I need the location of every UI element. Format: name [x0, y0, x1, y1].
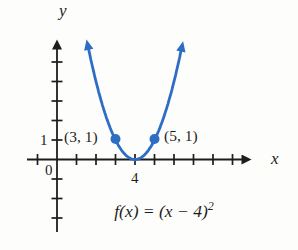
x-tick-label-4: 4	[131, 171, 139, 186]
point-label-5-1: (5, 1)	[164, 128, 198, 144]
function-label: f(x) = (x − 4)2	[96, 203, 232, 221]
point-dot-5-1	[150, 134, 160, 144]
point-label-3-1: (3, 1)	[64, 129, 98, 145]
data-points	[111, 134, 160, 144]
origin-label: 0	[45, 163, 53, 178]
y-axis-label: y	[59, 2, 67, 19]
x-axis-label: x	[271, 150, 279, 167]
y-tick-label-1: 1	[40, 133, 48, 148]
function-label-exponent: 2	[208, 199, 214, 213]
function-label-main: f(x) = (x − 4)	[114, 201, 208, 221]
figure-canvas: y x 1 0 4 (3, 1) (5, 1) f(x) = (x − 4)2	[0, 0, 298, 250]
point-dot-3-1	[111, 134, 121, 144]
